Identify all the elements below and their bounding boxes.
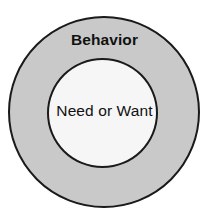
concentric-circle-diagram: Behavior Need or Want — [0, 0, 209, 224]
inner-circle-label: Need or Want — [0, 103, 209, 119]
outer-circle-label: Behavior — [0, 32, 209, 48]
